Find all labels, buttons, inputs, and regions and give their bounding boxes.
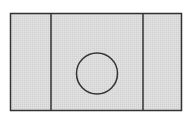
diagram-canvas xyxy=(0,0,190,113)
outer-rectangle xyxy=(11,14,182,111)
